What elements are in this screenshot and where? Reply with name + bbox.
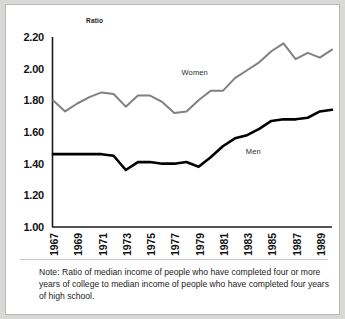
- x-tick-label: 1985: [266, 233, 278, 256]
- x-tick-label: 1977: [169, 233, 181, 256]
- x-tick-label: 1983: [242, 233, 254, 256]
- x-tick-label: 1973: [121, 233, 133, 256]
- x-tick-label: 1967: [48, 233, 60, 256]
- x-tick-label: 1989: [315, 233, 327, 256]
- note-divider: [20, 259, 328, 260]
- x-tick-label: 1981: [218, 233, 230, 256]
- chart-figure: Ratio 1.001.201.401.601.802.002.20 19671…: [5, 4, 340, 315]
- x-tick-label: 1987: [291, 233, 303, 256]
- x-tick-label: 1975: [145, 233, 157, 256]
- series-label-women: Women: [182, 68, 208, 77]
- series-label-men: Men: [246, 147, 261, 156]
- chart-note: Note: Ratio of median income of people w…: [39, 267, 329, 303]
- x-tick-label: 1969: [72, 233, 84, 256]
- x-tick-label: 1979: [194, 233, 206, 256]
- x-tick-label: 1971: [97, 233, 109, 256]
